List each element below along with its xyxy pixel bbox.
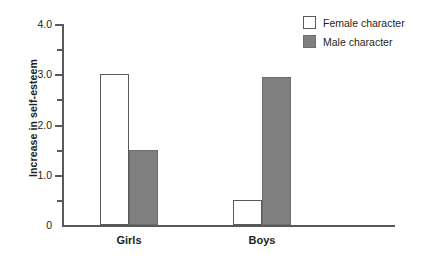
legend-label-male: Male character [323,36,392,48]
bar-chart: Increase in self-esteem 4.0 3.0 2.0 1.0 … [0,0,425,260]
y-tick-label-0: 0 [22,219,52,231]
legend-item-female: Female character [303,14,405,31]
y-tick-major-2 [55,125,63,127]
legend-label-female: Female character [323,17,405,29]
y-axis-title: Increase in self-esteem [27,23,39,213]
bar-boys-male [262,77,291,225]
y-tick-label-3: 3.0 [22,68,52,80]
female-swatch-icon [303,16,316,29]
x-axis-line [62,225,395,227]
bar-boys-female [233,200,262,225]
legend-item-male: Male character [303,33,405,50]
y-tick-major-4 [55,24,63,26]
y-tick-label-1: 1.0 [22,169,52,181]
y-tick-minor-0p5 [57,200,63,202]
y-tick-minor-1p5 [57,150,63,152]
y-tick-minor-2p5 [57,99,63,101]
bar-girls-female [100,74,129,225]
x-axis-label-boys: Boys [232,234,292,246]
y-tick-label-4: 4.0 [22,18,52,30]
y-tick-label-2: 2.0 [22,119,52,131]
legend: Female character Male character [303,14,405,52]
bar-girls-male [129,150,158,225]
y-tick-major-1 [55,175,63,177]
y-tick-minor-3p5 [57,49,63,51]
x-axis-label-girls: Girls [99,234,159,246]
y-tick-major-3 [55,74,63,76]
male-swatch-icon [303,35,316,48]
